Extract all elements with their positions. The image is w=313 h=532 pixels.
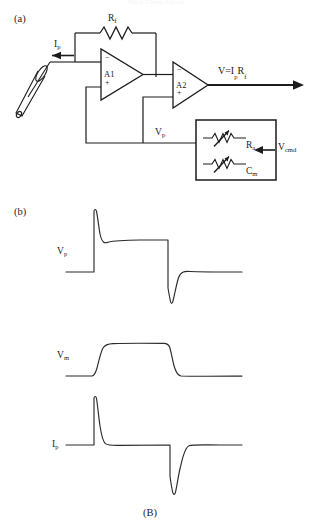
a2-noninverting-sign: + [177, 89, 182, 97]
a2-inverting-sign: − [177, 66, 182, 74]
wire-a1-noninverting-feedback [86, 87, 152, 143]
waveform-panel [66, 210, 242, 495]
output-arrow [208, 80, 304, 89]
figure-caption: (B) [143, 508, 157, 519]
figure-canvas [0, 0, 313, 532]
a1-noninverting-sign: + [105, 79, 110, 87]
figure-container: Patch Clamp Circuit [0, 0, 313, 532]
a1-inverting-sign: − [105, 54, 110, 62]
series-resistance-label: Ra [246, 141, 255, 151]
membrane-capacitance-label: Cm [246, 167, 257, 177]
membrane-voltage-trace [66, 343, 242, 376]
ip-trace-label: Ip [52, 440, 58, 450]
pipette-voltage-trace [66, 210, 242, 304]
pipette-current-arrow [52, 52, 74, 59]
command-voltage-label: Vcmd [278, 143, 296, 153]
pipette-electrode [15, 62, 75, 118]
pipette-voltage-label: Vp [155, 128, 165, 138]
panel-label-b: (b) [14, 207, 26, 218]
pipette-current-trace [66, 397, 242, 495]
output-equation-label: V=IpRf [218, 66, 246, 79]
panel-label-a: (a) [14, 14, 26, 25]
feedback-resistor-label: Rf [108, 14, 117, 24]
vp-trace-label: Vp [57, 247, 67, 257]
pipette-current-label: Ip [54, 40, 60, 50]
vm-trace-label: Vm [57, 351, 69, 361]
